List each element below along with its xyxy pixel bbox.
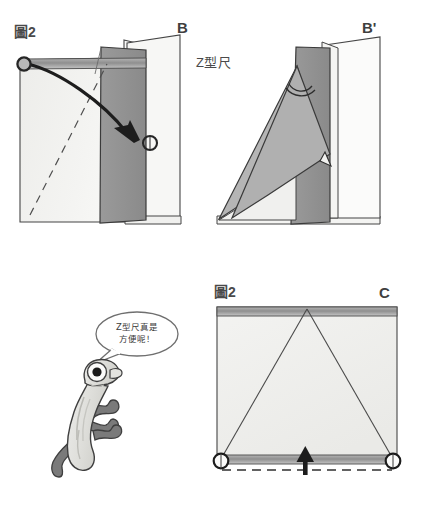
step-label-c: C xyxy=(379,284,390,301)
panel-c-top-gray-band xyxy=(217,307,397,316)
speech-bubble-line-2: 方便呢！ xyxy=(99,333,175,345)
panel-b-prime-group xyxy=(217,37,380,224)
figure-label-top-left: 圖2 xyxy=(14,21,36,41)
panel-c-main-sheet xyxy=(217,307,397,462)
figure-label-bottom-right: 圖2 xyxy=(214,281,236,301)
step-label-b-prime: B' xyxy=(362,19,376,36)
diagram-artwork xyxy=(0,0,428,508)
step-label-b: B xyxy=(177,19,188,36)
panel-b-dark-flap xyxy=(100,47,146,223)
illustration-canvas: 圖2 B B' Z型尺 圖2 C Z型尺真是 方便呢！ xyxy=(0,0,428,508)
panel-b-pivot-circle-top-left xyxy=(17,57,30,70)
worm-snout xyxy=(110,369,122,379)
speech-bubble-line-1: Z型尺真是 xyxy=(99,321,175,333)
speech-bubble-text: Z型尺真是 方便呢！ xyxy=(99,321,175,345)
worm-mascot xyxy=(52,360,122,477)
panel-c-group xyxy=(214,307,401,475)
z-ruler-label: Z型尺 xyxy=(196,52,231,71)
worm-eye-pupil xyxy=(92,367,101,376)
panel-b-group xyxy=(17,35,181,224)
